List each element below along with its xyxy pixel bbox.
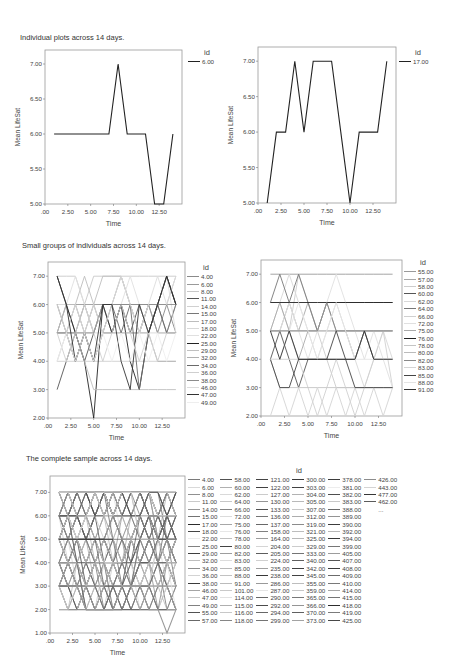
legend-item: 303.00 <box>292 483 325 490</box>
legend-swatch-icon <box>328 494 340 495</box>
legend-column: 426.00443.00477.00462.00... <box>364 476 397 513</box>
legend-swatch-icon <box>220 575 232 576</box>
legend-item: 8.00 <box>187 288 216 295</box>
legend-label: 462.00 <box>378 498 397 505</box>
legend-item: 14.00 <box>188 506 217 513</box>
legend-label: 407.00 <box>342 557 361 564</box>
legend-swatch-icon <box>328 487 340 488</box>
legend-swatch-icon <box>404 308 416 309</box>
legend-label: 205.00 <box>270 550 289 557</box>
legend-swatch-icon <box>328 590 340 591</box>
legend-swatch-icon <box>256 612 268 613</box>
legend-swatch-icon <box>188 620 200 621</box>
x-tick-label: 10.00 <box>132 637 148 644</box>
legend-item: 78.00 <box>220 535 253 542</box>
legend-label: 370.00 <box>306 609 325 616</box>
legend-label: 62.00 <box>418 298 433 305</box>
y-axis-label: Mean LifeSat <box>19 535 26 573</box>
legend-swatch-icon <box>220 597 232 598</box>
legend-swatch-icon <box>256 590 268 591</box>
legend-swatch-icon <box>187 298 199 299</box>
legend-item: 333.00 <box>292 550 325 557</box>
y-tick-label: 2.00 <box>35 606 48 613</box>
legend-label: 57.00 <box>418 276 433 283</box>
legend-swatch-icon <box>292 612 304 613</box>
legend-label: 47.00 <box>201 391 216 398</box>
legend-item: 72.00 <box>404 320 433 327</box>
x-axis-label: Time <box>110 649 125 656</box>
legend-label: 88.00 <box>418 379 433 386</box>
legend-item: 205.00 <box>256 550 289 557</box>
legend-swatch-icon <box>328 575 340 576</box>
legend-label: 4.00 <box>202 476 214 483</box>
legend-swatch-icon <box>188 61 200 62</box>
legend-swatch-icon <box>328 516 340 517</box>
legend-item: 80.00 <box>404 349 433 356</box>
legend-item: 366.00 <box>292 602 325 609</box>
legend-swatch-icon <box>328 509 340 510</box>
legend-swatch-icon <box>292 583 304 584</box>
legend-swatch-icon <box>256 575 268 576</box>
legend-column: 4.006.008.0011.0014.0015.0017.0018.0022.… <box>188 476 217 624</box>
legend-swatch-icon <box>187 306 199 307</box>
legend-swatch-icon <box>292 501 304 502</box>
legend-swatch-icon <box>220 605 232 606</box>
legend-label: 11.00 <box>202 498 217 505</box>
legend-item: 304.00 <box>292 491 325 498</box>
legend-label: 235.00 <box>270 565 289 572</box>
legend-label: 46.00 <box>201 384 216 391</box>
legend-label: 82.00 <box>418 357 433 364</box>
y-tick-label: 7.00 <box>35 488 48 495</box>
legend-swatch-icon <box>256 479 268 480</box>
legend-item: 290.00 <box>256 594 289 601</box>
legend-item: 91.00 <box>220 579 253 586</box>
legend-item: 319.00 <box>292 520 325 527</box>
legend-label: 366.00 <box>306 602 325 609</box>
legend-label: 312.00 <box>306 513 325 520</box>
legend-swatch-icon <box>292 560 304 561</box>
legend-label: 34.00 <box>201 362 216 369</box>
legend-swatch-icon <box>187 328 199 329</box>
legend-label: 292.00 <box>270 602 289 609</box>
legend-swatch-icon <box>256 583 268 584</box>
legend-swatch-icon <box>187 387 199 388</box>
legend-item: 76.00 <box>220 528 253 535</box>
legend-swatch-icon <box>188 487 200 488</box>
legend-swatch-icon <box>188 509 200 510</box>
legend-label: 80.00 <box>234 543 249 550</box>
legend-swatch-icon <box>188 494 200 495</box>
legend-item: 419.00 <box>328 609 361 616</box>
legend-label: 410.00 <box>342 580 361 587</box>
legend-label: 47.00 <box>202 594 217 601</box>
legend-swatch-icon <box>404 375 416 376</box>
legend-item: 15.00 <box>187 310 216 317</box>
legend-item: 407.00 <box>328 557 361 564</box>
legend-swatch-icon <box>188 560 200 561</box>
legend-swatch-icon <box>404 323 416 324</box>
legend-label: 303.00 <box>306 484 325 491</box>
legend-label: 76.00 <box>418 335 433 342</box>
legend-title: id <box>296 466 400 475</box>
legend-item: 294.00 <box>256 609 289 616</box>
legend-label: 4.00 <box>201 273 213 280</box>
legend-chart-individual-id6: id6.00 <box>188 48 214 65</box>
legend-item: 22.00 <box>188 535 217 542</box>
legend-item: 88.00 <box>220 572 253 579</box>
legend-label: 388.00 <box>342 506 361 513</box>
x-tick-label: 5.00 <box>89 637 102 644</box>
legend-swatch-icon <box>188 538 200 539</box>
legend-item: 122.00 <box>256 483 289 490</box>
legend-swatch-icon <box>364 487 376 488</box>
legend-label: 204.00 <box>270 543 289 550</box>
legend-swatch-icon <box>328 538 340 539</box>
y-tick-label: 1.00 <box>35 629 48 636</box>
legend-label: 287.00 <box>270 587 289 594</box>
legend-swatch-icon <box>256 546 268 547</box>
x-tick-label: .00 <box>46 637 55 644</box>
legend-label: 405.00 <box>342 550 361 557</box>
legend-item: 8.00 <box>188 491 217 498</box>
legend-item: 238.00 <box>256 572 289 579</box>
legend-swatch-icon <box>328 531 340 532</box>
legend-label: 304.00 <box>306 491 325 498</box>
legend-swatch-icon <box>404 338 416 339</box>
